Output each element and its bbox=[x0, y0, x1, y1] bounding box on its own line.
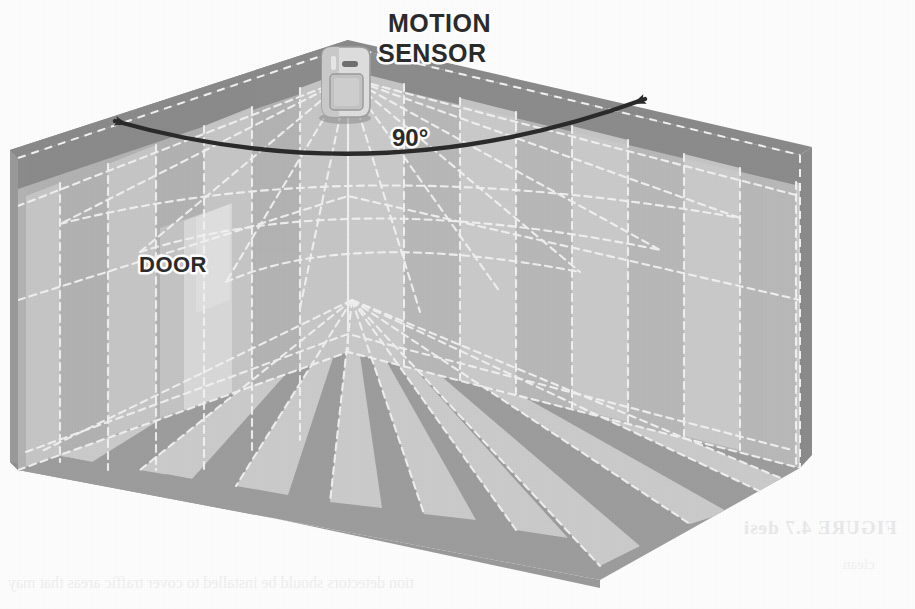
figure-root: MOTION SENSOR 90° DOOR FIGURE 4.7 desi t… bbox=[0, 0, 915, 609]
label-motion-sensor-line1: MOTION bbox=[388, 9, 491, 37]
sensor-lens-inner bbox=[334, 78, 359, 106]
motion-sensor-coverage-diagram: MOTION SENSOR 90° DOOR bbox=[0, 0, 915, 609]
sensor-highlight bbox=[331, 56, 336, 70]
motion-sensor-device[interactable] bbox=[319, 47, 371, 124]
outer-wall-right bbox=[800, 147, 812, 468]
label-motion-sensor-line2: SENSOR bbox=[378, 39, 487, 67]
door-group bbox=[160, 203, 232, 418]
sensor-led-indicator bbox=[342, 61, 358, 67]
label-door: DOOR bbox=[139, 252, 207, 277]
label-sweep-angle: 90° bbox=[392, 124, 428, 151]
